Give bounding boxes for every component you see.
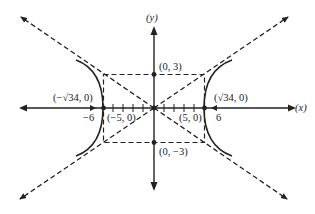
y-axis-down-arrow-icon: [151, 182, 158, 191]
label-vertex-left: (−√34, 0): [53, 93, 93, 104]
y-axis-label: (y): [146, 13, 158, 24]
label-vertex-right: (√34, 0): [214, 93, 248, 104]
hyperbola-diagram: (y) (x) (0, 3) (0, −3) (−√34, 0) (√34, 0…: [0, 0, 315, 214]
tick-pos6-arrow-icon: [211, 105, 217, 111]
label-point-top: (0, 3): [159, 62, 182, 73]
x-axis-label: (x): [295, 103, 307, 114]
label-tick-neg6: −6: [83, 113, 94, 124]
x-axis-left-arrow-icon: [19, 105, 27, 112]
point-neg5: [101, 106, 106, 111]
label-point-bottom: (0, −3): [159, 147, 188, 158]
graph-canvas: [0, 0, 315, 214]
point-bottom: [152, 140, 157, 145]
point-top: [152, 72, 157, 77]
point-origin: [152, 106, 157, 111]
label-point-neg5: (−5, 0): [107, 113, 136, 124]
y-axis-up-arrow-icon: [151, 26, 158, 35]
tick-neg6-arrow-icon: [90, 105, 96, 111]
label-tick-pos6: 6: [216, 113, 221, 124]
point-pos5: [202, 106, 207, 111]
label-point-pos5: (5, 0): [179, 113, 202, 124]
